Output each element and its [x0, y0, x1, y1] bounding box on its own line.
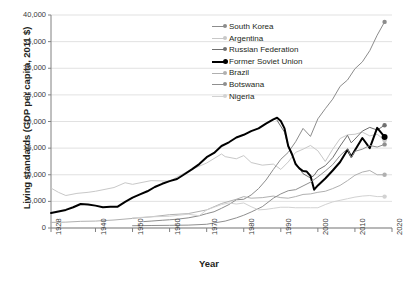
y-tick-label: 15,000 [3, 143, 46, 152]
y-tick-label: 25,000 [3, 90, 46, 99]
x-tick-label: 2010 [358, 218, 367, 235]
legend-item-south-korea[interactable]: South Korea [212, 21, 332, 33]
legend-item-brazil[interactable]: Brazil [212, 67, 332, 79]
legend-swatch-icon [212, 91, 229, 102]
legend-dot-icon [223, 71, 227, 75]
x-tick-label: 1970 [210, 218, 219, 235]
legend-item-argentina[interactable]: Argentina [212, 33, 332, 45]
legend-dot-icon [223, 82, 227, 86]
x-tick-label: 1960 [173, 218, 182, 235]
x-axis-title: Year [0, 258, 418, 269]
x-tick-label: 1940 [99, 218, 108, 235]
x-tick-label: 2000 [321, 218, 330, 235]
legend-swatch-icon [212, 68, 229, 79]
x-tick-label: 1980 [247, 218, 256, 235]
y-tick-label: 10,000 [3, 170, 46, 179]
legend-item-nigeria[interactable]: Nigeria [212, 91, 332, 103]
legend-label: Botswana [229, 79, 264, 91]
chart-figure: Living standards (GDP per capita, 2011 $… [0, 0, 418, 281]
x-tick-label: 1928 [54, 218, 63, 235]
chart-legend: South KoreaArgentinaRussian FederationFo… [212, 21, 332, 102]
legend-swatch-icon [212, 44, 229, 55]
chart-svg [0, 0, 418, 281]
x-tick-label: 2020 [395, 218, 404, 235]
legend-item-russian-federation[interactable]: Russian Federation [212, 44, 332, 56]
y-tick-label: 40,000 [3, 10, 46, 19]
y-tick-label: 30,000 [3, 63, 46, 72]
y-tick-label: 20,000 [3, 117, 46, 126]
legend-dot-icon [223, 36, 227, 40]
y-tick-label: 5,000 [3, 196, 46, 205]
legend-swatch-icon [212, 21, 229, 32]
legend-swatch-icon [212, 79, 229, 90]
plot-area [0, 0, 418, 281]
legend-dot-icon [223, 94, 227, 98]
y-tick-label: 0 [3, 223, 46, 232]
legend-label: Brazil [229, 67, 249, 79]
legend-dot-icon [223, 47, 227, 51]
legend-dot-icon [223, 59, 228, 64]
legend-label: Nigeria [229, 91, 254, 103]
legend-label: Argentina [229, 33, 263, 45]
legend-dot-icon [223, 24, 227, 28]
legend-swatch-icon [212, 33, 229, 44]
legend-item-botswana[interactable]: Botswana [212, 79, 332, 91]
legend-label: South Korea [229, 21, 273, 33]
legend-label: Russian Federation [229, 44, 298, 56]
legend-swatch-icon [212, 56, 229, 67]
legend-item-former-soviet-union[interactable]: Former Soviet Union [212, 56, 332, 68]
x-tick-label: 1990 [284, 218, 293, 235]
y-tick-label: 35,000 [3, 37, 46, 46]
x-tick-label: 1950 [136, 218, 145, 235]
legend-label: Former Soviet Union [229, 56, 302, 68]
